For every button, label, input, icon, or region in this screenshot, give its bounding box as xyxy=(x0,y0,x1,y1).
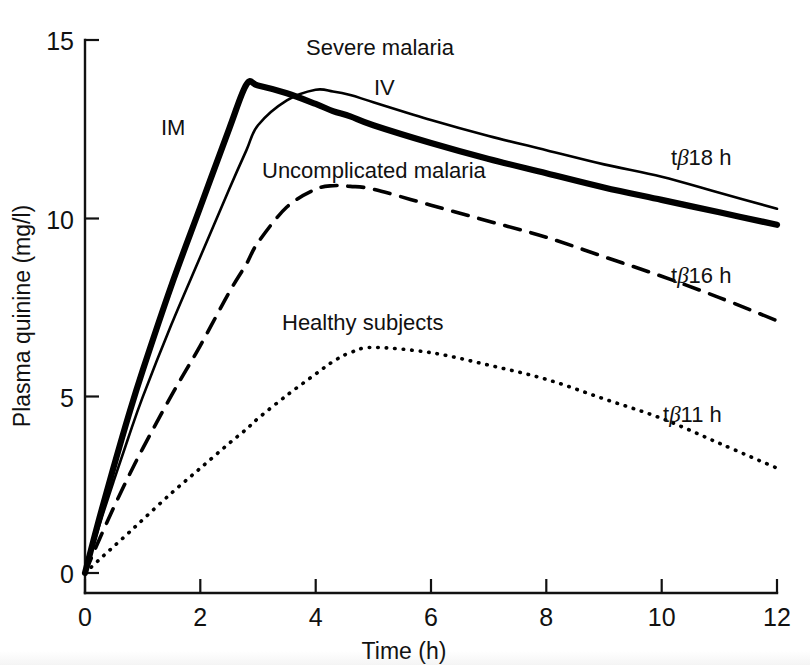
half-life-iv-beta-icon: β xyxy=(676,145,689,170)
x-tick-label-2: 2 xyxy=(193,603,207,631)
x-axis-tick-labels: 0 2 4 6 8 10 12 xyxy=(78,603,791,631)
y-tick-label-5: 5 xyxy=(60,384,74,412)
label-im: IM xyxy=(161,115,185,140)
half-life-iv: tβ18 h xyxy=(671,145,731,170)
y-tick-label-10: 10 xyxy=(46,206,74,234)
quinine-pharmacokinetics-figure: 15 10 5 0 0 2 4 6 8 10 12 Time (h) Plasm xyxy=(0,0,810,665)
x-axis-title: Time (h) xyxy=(362,638,447,664)
half-life-uncomplicated-value: 16 h xyxy=(689,263,732,288)
x-tick-label-10: 10 xyxy=(648,603,676,631)
y-tick-label-15: 15 xyxy=(46,27,74,55)
half-life-uncomplicated: tβ16 h xyxy=(671,263,731,288)
half-life-iv-value: 18 h xyxy=(689,145,732,170)
x-tick-label-0: 0 xyxy=(78,603,92,631)
half-life-healthy: tβ11 h xyxy=(663,402,722,427)
x-tick-label-8: 8 xyxy=(539,603,553,631)
label-severe-malaria: Severe malaria xyxy=(306,35,455,60)
x-tick-label-6: 6 xyxy=(424,603,438,631)
plot-canvas: 15 10 5 0 0 2 4 6 8 10 12 Time (h) Plasm xyxy=(0,0,810,665)
half-life-healthy-beta-icon: β xyxy=(668,402,681,427)
y-axis-title: Plasma quinine (mg/l) xyxy=(9,205,35,427)
half-life-healthy-value: 11 h xyxy=(681,402,722,427)
x-axis-ticks xyxy=(85,579,777,593)
y-tick-label-0: 0 xyxy=(60,560,74,588)
y-axis-tick-labels: 15 10 5 0 xyxy=(46,27,74,588)
label-uncomplicated-malaria: Uncomplicated malaria xyxy=(262,158,487,183)
label-iv: IV xyxy=(374,75,395,100)
label-healthy-subjects: Healthy subjects xyxy=(282,310,443,335)
x-tick-label-4: 4 xyxy=(309,603,323,631)
half-life-uncomplicated-beta-icon: β xyxy=(676,263,689,288)
x-tick-label-12: 12 xyxy=(763,603,791,631)
y-axis-ticks xyxy=(85,40,99,573)
curve-healthy-subjects xyxy=(85,347,777,573)
